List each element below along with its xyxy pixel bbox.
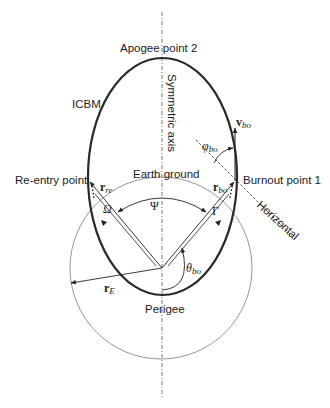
phi-bo-symbol: φbo: [202, 139, 218, 154]
r-bo-symbol: rbo: [213, 180, 228, 195]
gamma-inner-line: [168, 194, 229, 266]
r-e-symbol: rE: [104, 281, 115, 296]
burnout-label: Burnout point 1: [243, 174, 321, 186]
gamma-arrow-tip: [215, 220, 221, 226]
earth-ground-label: Earth ground: [133, 168, 200, 180]
r-re-symbol: rre: [100, 180, 113, 195]
apogee-label: Apogee point 2: [120, 42, 197, 54]
perigee-label: Perigee: [145, 303, 185, 315]
reentry-label: Re-entry point: [15, 174, 88, 186]
omega-symbol: Ω: [103, 202, 112, 216]
psi-symbol: Ψ: [150, 199, 159, 213]
horizontal-label: Horizontal: [255, 199, 302, 243]
burnout-dots: [230, 186, 232, 198]
symmetric-axis-label: Symmetric axis: [166, 74, 178, 152]
icbm-trajectory-diagram: Apogee point 2 ICBM Symmetric axis Re-en…: [0, 0, 330, 408]
gamma-symbol: Γ: [212, 204, 219, 218]
v-bo-symbol: vbo: [236, 115, 252, 130]
reentry-dots: [92, 186, 94, 198]
theta-bo-symbol: θbo: [186, 261, 201, 276]
icbm-label: ICBM: [72, 98, 101, 110]
r-re-vector: [90, 182, 162, 268]
omega-arrow-tip: [101, 220, 107, 226]
